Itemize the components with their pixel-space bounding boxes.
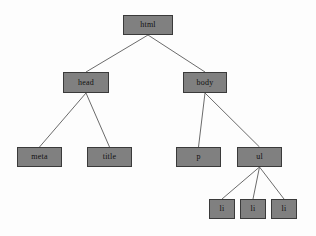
tree-node-meta: meta [17, 147, 62, 167]
tree-node-label: ul [256, 153, 263, 161]
dom-tree-diagram: htmlheadbodymetatitlepullilili [0, 0, 316, 236]
tree-edge-ul-li3 [260, 167, 285, 199]
tree-node-label: li [220, 205, 225, 213]
tree-edge-body-ul [205, 93, 260, 147]
tree-node-label: head [78, 79, 94, 87]
tree-node-li2: li [240, 199, 266, 219]
tree-edge-head-title [86, 93, 110, 147]
tree-edges [0, 0, 316, 236]
tree-node-label: body [197, 79, 214, 87]
tree-node-li1: li [209, 199, 235, 219]
tree-node-label: p [196, 153, 200, 161]
tree-node-ul: ul [237, 147, 282, 167]
tree-node-html: html [123, 15, 173, 35]
tree-node-head: head [63, 72, 109, 93]
tree-edge-head-meta [40, 93, 87, 147]
tree-node-p: p [176, 147, 221, 167]
tree-edge-body-p [199, 93, 206, 147]
tree-node-body: body [183, 72, 227, 93]
tree-node-label: title [103, 153, 116, 161]
tree-node-label: meta [31, 153, 47, 161]
tree-node-label: li [251, 205, 256, 213]
tree-node-label: li [282, 205, 287, 213]
tree-node-title: title [87, 147, 132, 167]
tree-node-label: html [140, 21, 155, 29]
tree-edge-html-head [86, 35, 148, 72]
tree-node-li3: li [271, 199, 297, 219]
tree-edge-html-body [148, 35, 205, 72]
